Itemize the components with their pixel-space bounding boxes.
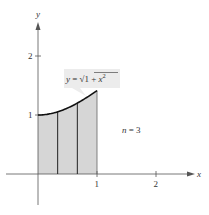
shaded-region — [38, 91, 97, 174]
x-axis-label: x — [196, 169, 201, 179]
y-axis-label: y — [35, 9, 40, 19]
x-axis-arrowhead — [187, 172, 195, 177]
y-tick-label: 2 — [28, 51, 33, 61]
label-pointer — [72, 88, 86, 96]
x-tick-label: 2 — [154, 179, 159, 189]
function-label: y = √1 + x2 — [65, 72, 106, 84]
riemann-sum-diagram: x y 1212 y = √1 + x2 n = 3 — [0, 0, 209, 215]
y-axis-arrowhead — [36, 22, 41, 30]
area-under-curve — [38, 91, 97, 174]
x-tick-label: 1 — [95, 179, 100, 189]
n-annotation: n = 3 — [122, 125, 141, 135]
y-tick-label: 1 — [28, 110, 33, 120]
